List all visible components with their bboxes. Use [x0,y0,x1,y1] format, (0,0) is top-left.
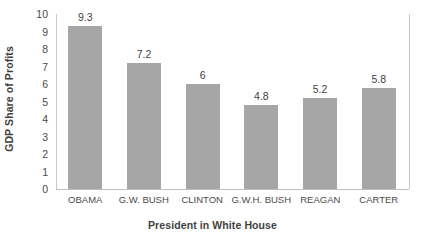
y-axis-tick-labels: 109876543210 [20,9,52,189]
y-axis-tick-label: 9 [42,26,48,37]
bar [244,105,278,189]
bar-value-label: 5.8 [349,73,408,85]
bar-slot: 4.8 [232,9,291,189]
y-axis-tick-label: 5 [42,96,48,107]
x-axis-title: President in White House [0,219,425,231]
y-axis-tick-label: 0 [42,184,48,195]
bar-slot: 7.2 [115,9,174,189]
x-axis-tick-label: REAGAN [291,193,349,211]
y-axis-tick-label: 2 [42,149,48,160]
y-axis-tick-label: 10 [36,9,48,20]
x-axis-line [56,189,409,190]
bar-value-label: 9.3 [56,11,115,23]
bar [362,88,396,190]
x-axis-tick-label: OBAMA [56,193,114,211]
bar-slot: 9.3 [56,9,115,189]
bar-value-label: 7.2 [115,48,174,60]
bar-series: 9.37.264.85.25.8 [56,9,408,189]
x-axis-tick-label: G.W. BUSH [114,193,172,211]
bar [127,63,161,189]
bar-value-label: 6 [173,69,232,81]
bar-chart: GDP Share of Profits 109876543210 9.37.2… [0,0,425,244]
bar [68,26,102,189]
y-axis-tick-label: 7 [42,61,48,72]
y-axis-tick-label: 6 [42,79,48,90]
y-axis-title-label: GDP Share of Profits [3,46,15,152]
bar-slot: 5.8 [349,9,408,189]
x-axis-tick-label: G.W.H. BUSH [231,193,291,211]
x-axis-tick-label: CLINTON [173,193,231,211]
bar [186,84,220,189]
y-axis-title: GDP Share of Profits [0,0,18,197]
bar-value-label: 5.2 [291,83,350,95]
bar-value-label: 4.8 [232,90,291,102]
bar-slot: 5.2 [291,9,350,189]
y-axis-tick-label: 3 [42,131,48,142]
x-axis-tick-labels: OBAMAG.W. BUSHCLINTONG.W.H. BUSHREAGANCA… [56,193,408,211]
x-axis-tick-label: CARTER [350,193,408,211]
y-axis-tick-label: 4 [42,114,48,125]
bar-slot: 6 [173,9,232,189]
bar [303,98,337,189]
y-axis-tick-label: 1 [42,166,48,177]
y-axis-tick-label: 8 [42,44,48,55]
